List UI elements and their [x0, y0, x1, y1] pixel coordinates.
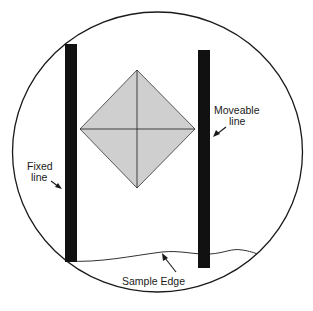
fixed-line-label-2: line [31, 171, 48, 183]
moveable-line-bar [198, 50, 210, 268]
diagram-canvas: Fixed line Moveable line Sample Edge [0, 0, 313, 311]
moveable-line-label-2: line [229, 115, 246, 127]
sample-edge-label: Sample Edge [122, 275, 185, 287]
fixed-line-bar [65, 44, 77, 262]
